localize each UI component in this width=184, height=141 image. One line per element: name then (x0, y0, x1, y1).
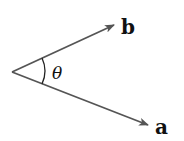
diagram-canvas: θ b a (0, 0, 184, 141)
angle-arc (42, 58, 45, 84)
vector-angle-diagram: θ b a (0, 0, 184, 141)
vector-a-label: a (155, 115, 168, 139)
vector-a (12, 72, 148, 125)
vector-b-label: b (121, 15, 135, 39)
vector-b (12, 25, 114, 72)
angle-label: θ (52, 63, 62, 83)
